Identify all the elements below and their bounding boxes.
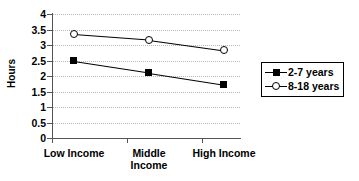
y-axis-tick	[47, 107, 52, 108]
y-axis-tick-label: 1.5	[2, 87, 46, 97]
y-axis-tick	[47, 45, 52, 46]
x-axis-tick	[202, 138, 203, 143]
y-axis-line	[52, 13, 53, 139]
y-axis-tick-label: 3.5	[2, 25, 46, 35]
y-axis-tick	[47, 61, 52, 62]
plot-area	[52, 14, 240, 138]
y-axis-tick-label: 0	[2, 133, 46, 143]
x-axis-tick-label: High Income	[174, 147, 274, 159]
y-axis-tick	[47, 14, 52, 15]
y-axis-tick-label: 1	[2, 102, 46, 112]
gridline	[52, 30, 240, 31]
gridline	[52, 45, 240, 46]
gridline	[52, 123, 240, 124]
x-axis-line	[52, 138, 241, 139]
data-point-marker	[145, 36, 153, 44]
line-chart: Hours 00.511.522.533.54 Low IncomeMiddle…	[0, 0, 359, 181]
legend-item-2-7-years[interactable]: 2-7 years	[265, 65, 339, 79]
data-point-marker	[220, 81, 227, 88]
legend-item-8-18-years[interactable]: 8-18 years	[265, 79, 339, 93]
y-axis-tick-label: 0.5	[2, 118, 46, 128]
legend-marker-filled-square-icon	[265, 66, 287, 78]
gridline	[52, 107, 240, 108]
legend-label: 8-18 years	[287, 80, 339, 92]
y-axis-tick-label: 2.5	[2, 56, 46, 66]
chart-legend: 2-7 years 8-18 years	[261, 62, 344, 97]
y-axis-tick-label: 3	[2, 40, 46, 50]
gridline	[52, 14, 240, 15]
y-axis-tick-label: 4	[2, 9, 46, 19]
gridline	[52, 92, 240, 93]
y-axis-tick	[47, 30, 52, 31]
x-axis-tick	[52, 138, 53, 143]
x-axis-tick	[127, 138, 128, 143]
legend-label: 2-7 years	[287, 66, 334, 78]
y-axis-tick	[47, 76, 52, 77]
y-axis-tick	[47, 92, 52, 93]
legend-marker-open-circle-icon	[265, 80, 287, 92]
data-point-marker	[70, 57, 77, 64]
y-axis-tick	[47, 123, 52, 124]
data-point-marker	[145, 69, 152, 76]
gridline	[52, 76, 240, 77]
y-axis-tick-label: 2	[2, 71, 46, 81]
